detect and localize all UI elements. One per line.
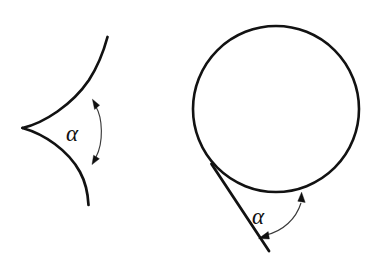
geometry-diagram-svg: α α [0, 0, 386, 263]
angle-label-left: α [66, 121, 79, 146]
angle-label-right: α [252, 204, 265, 229]
geometry-figure-canvas: α α [0, 0, 386, 263]
figure-background [0, 0, 386, 263]
